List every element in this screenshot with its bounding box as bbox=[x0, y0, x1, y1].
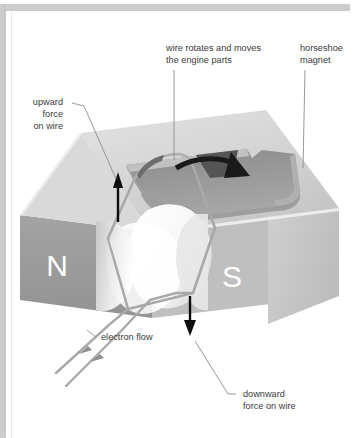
label-horseshoe-line2: magnet bbox=[300, 55, 331, 65]
south-pole-label: S bbox=[222, 260, 242, 293]
label-upward-force-line3: on wire bbox=[33, 121, 63, 131]
label-wire-rotates-line2: the engine parts bbox=[166, 55, 232, 65]
label-downward-force-line2: force on wire bbox=[243, 401, 296, 411]
label-wire-rotates-line1: wire rotates and moves bbox=[165, 43, 261, 53]
label-downward-force-line1: downward bbox=[243, 389, 285, 399]
label-upward-force-line2: force bbox=[43, 109, 63, 119]
north-pole-label: N bbox=[46, 249, 68, 282]
label-electron-flow: electron flow bbox=[101, 332, 153, 342]
label-horseshoe-line1: horseshoe bbox=[300, 43, 343, 53]
label-upward-force-line1: upward bbox=[33, 97, 63, 107]
electric-motor-diagram: N S bbox=[0, 0, 354, 438]
diagram-canvas: N S bbox=[0, 0, 354, 438]
